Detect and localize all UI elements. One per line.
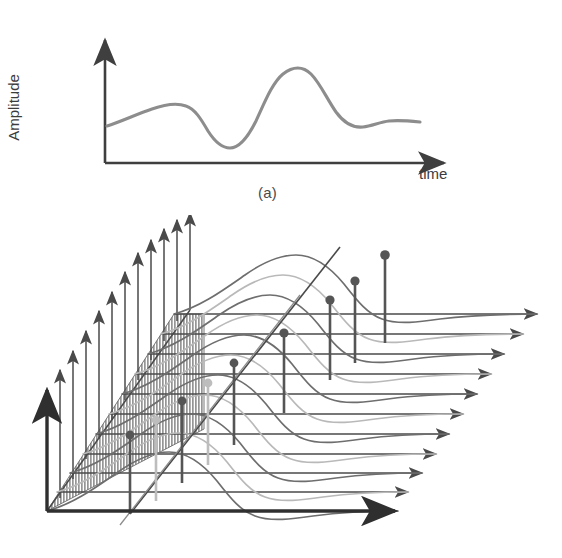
stem-marker	[152, 416, 161, 425]
panel-b-plot	[0, 215, 562, 558]
panel-a: Amplitude time (a)	[0, 0, 562, 215]
waveform-traces	[47, 255, 537, 519]
panel-a-plot	[0, 0, 562, 215]
stem-marker	[380, 250, 390, 260]
panel-a-caption: (a)	[258, 184, 277, 201]
stem-marker	[325, 295, 334, 304]
waveform-trace	[161, 275, 523, 342]
stem-marker	[230, 359, 239, 368]
stem-marker	[178, 397, 187, 406]
stem-marker	[204, 379, 213, 388]
stem-marker	[350, 276, 359, 285]
stem-marker	[279, 328, 288, 337]
panel-a-x-axis-label: time	[419, 165, 447, 182]
panel-a-signal-curve	[107, 68, 420, 148]
panel-b: Amplitude time (b)	[0, 215, 562, 558]
panel-a-y-axis-label: Amplitude	[5, 74, 22, 141]
stem-marker	[126, 431, 135, 440]
figure-root: Amplitude time (a)	[0, 0, 562, 558]
